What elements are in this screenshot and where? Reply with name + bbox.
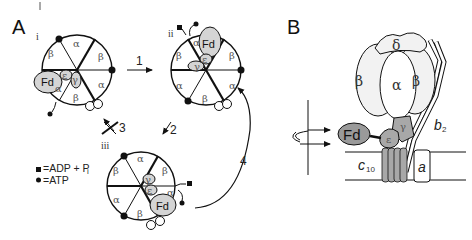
alpha-label: α	[98, 79, 105, 90]
state-label-i: i	[36, 31, 39, 42]
epsilon-label: ε	[386, 134, 391, 145]
step-label-1: 1	[136, 54, 143, 68]
state-label-iii: iii	[101, 140, 110, 151]
beta-label: β	[73, 92, 79, 103]
beta-label: β	[176, 50, 182, 61]
beta-label: β	[162, 165, 168, 176]
beta-label: β	[229, 50, 235, 61]
c10-ring	[382, 148, 407, 182]
state-ii-diagram: ii Fd α ε γ β β α α β	[168, 22, 245, 111]
gamma-label: γ	[194, 61, 200, 72]
step-label-4: 4	[240, 154, 247, 168]
c-subunit-label: c	[358, 157, 365, 173]
state-label-ii: ii	[168, 28, 174, 39]
a-subunit-label: a	[418, 159, 426, 175]
panel-b-diagram: a c 10 δ α β β γ ε Fd b 2	[293, 33, 466, 182]
legend-circle-icon	[36, 178, 41, 183]
legend-adp-subscript: i	[87, 167, 89, 176]
alpha-label: α	[229, 80, 236, 91]
alpha-label: α	[193, 37, 200, 48]
fd-label: Fd	[202, 38, 215, 50]
alpha-label: α	[113, 194, 120, 205]
fd-label: Fd	[156, 200, 169, 212]
b-subunit-label: b	[434, 117, 442, 133]
alpha-label: α	[137, 153, 144, 164]
step-label-2: 2	[170, 123, 177, 137]
legend: =ADP + P i =ATP	[36, 162, 90, 186]
legend-atp-label: =ATP	[43, 174, 69, 186]
panel-label-b: B	[287, 16, 300, 38]
b-subunit-subscript: 2	[442, 125, 447, 134]
atp-synthase-figure: A i α β α β β Fd ε γ α 1	[0, 0, 472, 240]
legend-adp-label: =ADP + P	[43, 162, 90, 174]
beta-label: β	[98, 51, 104, 62]
beta-label: β	[113, 165, 119, 176]
beta-left-label: β	[355, 73, 363, 89]
legend-square-icon	[36, 167, 41, 172]
fd-label: Fd	[343, 126, 361, 143]
alpha-label: α	[73, 38, 80, 49]
beta-right-label: β	[412, 73, 420, 89]
epsilon-label: ε	[62, 70, 67, 81]
alpha-label: α	[167, 187, 174, 198]
state-iii-diagram: iii γ ε Fd α β β α α β	[101, 140, 192, 230]
alpha-label: α	[392, 77, 402, 93]
gamma-label: γ	[72, 74, 78, 85]
step-label-3: 3	[119, 121, 126, 135]
arrow-step-3-blocked	[102, 119, 118, 134]
alpha-label: α	[55, 83, 62, 94]
beta-label: β	[48, 48, 54, 59]
gamma-label: γ	[145, 174, 151, 185]
alpha-label: α	[176, 80, 183, 91]
panel-label-a: A	[12, 16, 26, 38]
fd-label: Fd	[41, 76, 54, 88]
epsilon-label: ε	[147, 185, 152, 196]
beta-label: β	[202, 93, 208, 104]
beta-label: β	[137, 208, 143, 219]
gamma-label: γ	[400, 121, 406, 132]
c-subunit-subscript: 10	[366, 165, 375, 174]
state-i-diagram: i α β α β β Fd ε γ α	[34, 31, 116, 117]
